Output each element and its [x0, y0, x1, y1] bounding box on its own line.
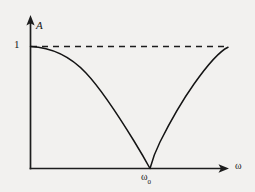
y-axis-label: A: [36, 20, 43, 31]
x-axis-label: ω: [235, 161, 242, 171]
amplitude-response-curve: [31, 47, 229, 169]
x-axis-tick-label-omega0: ω0: [141, 172, 151, 185]
figure-container: A 1 ω ω0: [0, 0, 255, 192]
y-axis-tick-label-1: 1: [14, 39, 20, 50]
x-tick-subscript: 0: [148, 178, 152, 186]
x-tick-base: ω: [141, 171, 148, 182]
